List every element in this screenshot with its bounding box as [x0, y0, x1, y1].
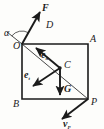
vector-label-sub-2: t [28, 76, 30, 81]
region-label-d: D [45, 19, 54, 30]
vector-label-e-t: et [24, 69, 30, 81]
point-markers-group [58, 66, 61, 69]
angle-label-alpha: α [4, 27, 10, 38]
vector-label-sub-4: P [67, 125, 71, 129]
vector-label-base-0: F [41, 2, 49, 13]
vertex-label-b: B [13, 98, 19, 109]
diagram-canvas: FenetGvPOABPCDα [0, 0, 104, 129]
vertex-label-a: A [89, 33, 97, 44]
vector-arrow-f [22, 12, 40, 44]
vector-arrow-v-p [62, 99, 88, 119]
vector-label-f: F [41, 2, 49, 13]
mechanics-diagram: FenetGvPOABPCDα [0, 0, 104, 129]
vector-label-sub-1: n [45, 56, 48, 61]
vector-label-e-n: en [41, 49, 48, 61]
point-marker-c [58, 66, 61, 69]
labels-group: FenetGvPOABPCDα [4, 2, 97, 129]
vector-label-g: G [64, 83, 72, 94]
vector-label-base-3: G [64, 83, 72, 94]
vector-label-v-p: vP [63, 118, 71, 129]
vector-arrow-e-t [33, 68, 60, 86]
vector-arrows-group [22, 12, 88, 119]
vertex-label-p: P [90, 96, 97, 107]
vertex-label-o: O [13, 40, 20, 51]
vertex-label-c: C [64, 59, 71, 70]
